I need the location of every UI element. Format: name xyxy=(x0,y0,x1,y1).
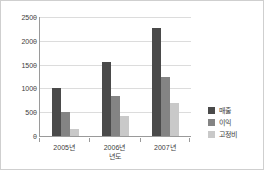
y-tick-mark xyxy=(34,88,37,89)
bar xyxy=(102,62,111,136)
legend-swatch xyxy=(208,119,215,126)
chart-legend: 매출이익고정비 xyxy=(208,107,237,138)
y-tick-label: 2000 xyxy=(3,37,37,44)
bar xyxy=(111,96,120,136)
x-axis-title: 년도 xyxy=(39,151,191,161)
y-tick-mark xyxy=(34,65,37,66)
bar xyxy=(161,77,170,136)
x-tick-mark xyxy=(140,138,141,142)
x-axis: 2005년2006년2007년 xyxy=(39,138,191,150)
legend-label: 이익 xyxy=(219,119,231,126)
legend-label: 매출 xyxy=(219,107,231,114)
bar xyxy=(120,116,129,136)
bar-group xyxy=(90,17,140,136)
x-tick-mark xyxy=(189,138,190,142)
legend-label: 고정비 xyxy=(219,131,237,138)
bar xyxy=(152,28,161,136)
legend-item[interactable]: 이익 xyxy=(208,119,237,126)
y-tick-label: 0 xyxy=(3,133,37,140)
plot-area xyxy=(39,17,191,137)
legend-item[interactable]: 매출 xyxy=(208,107,237,114)
bar-group xyxy=(40,17,90,136)
bar xyxy=(70,129,79,136)
y-tick-mark xyxy=(34,41,37,42)
bar-chart: 05001000150020002500 2005년2006년2007년 년도 … xyxy=(0,0,264,170)
y-tick-label: 500 xyxy=(3,109,37,116)
y-tick-mark xyxy=(34,112,37,113)
bar xyxy=(61,112,70,136)
x-tick-mark xyxy=(89,138,90,142)
legend-swatch xyxy=(208,131,215,138)
y-tick-mark xyxy=(34,17,37,18)
y-tick-label: 2500 xyxy=(3,14,37,21)
y-tick-label: 1000 xyxy=(3,85,37,92)
y-axis: 05001000150020002500 xyxy=(1,17,37,137)
legend-swatch xyxy=(208,107,215,114)
x-tick-mark xyxy=(39,138,40,142)
legend-item[interactable]: 고정비 xyxy=(208,131,237,138)
bar xyxy=(170,103,179,136)
y-tick-mark xyxy=(34,136,37,137)
bar xyxy=(52,88,61,136)
bar-group xyxy=(141,17,191,136)
y-tick-label: 1500 xyxy=(3,61,37,68)
